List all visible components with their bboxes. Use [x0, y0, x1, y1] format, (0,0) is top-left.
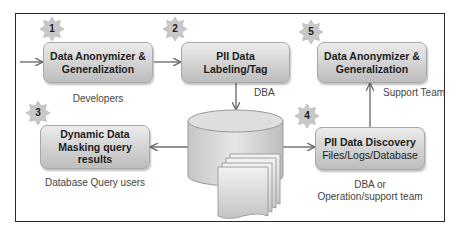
- step-3-dynamic-masking-box: Dynamic Data Masking query results: [40, 125, 150, 169]
- step-3-number: 3: [26, 101, 50, 125]
- step-3-number-badge: 3: [26, 101, 50, 125]
- step-2-pii-labeling-box: PII Data Labeling/Tag: [181, 42, 290, 83]
- step-4-pii-discovery-box: PII Data Discovery Files/Logs/Database: [315, 127, 425, 170]
- step-2-number: 2: [163, 17, 187, 41]
- step-5-data-anonymizer-box: Data Anonymizer & Generalization: [317, 42, 427, 83]
- step-5-title-line-2: Generalization: [336, 63, 408, 76]
- step-4-number-badge: 4: [295, 104, 319, 128]
- step-4-role-label-line-1: DBA or: [315, 179, 425, 190]
- step-2-title-line-2: Labeling/Tag: [204, 63, 268, 76]
- step-5-number-badge: 5: [299, 20, 323, 44]
- document-stack-icon: [218, 154, 280, 219]
- step-2-role-label: DBA: [254, 87, 275, 98]
- step-1-title-line-2: Generalization: [62, 63, 134, 76]
- step-5-number: 5: [299, 20, 323, 44]
- step-3-title-line-3: results: [78, 153, 112, 166]
- step-3-title-line-2: Masking query: [58, 141, 132, 154]
- step-1-data-anonymizer-box: Data Anonymizer & Generalization: [43, 42, 153, 83]
- step-1-role-label: Developers: [43, 93, 153, 104]
- step-3-role-label: Database Query users: [30, 177, 160, 188]
- step-1-number: 1: [40, 17, 64, 41]
- step-1-title-line-1: Data Anonymizer &: [50, 50, 146, 63]
- step-2-title-line-1: PII Data: [216, 50, 255, 63]
- step-5-role-label: Support Team: [383, 87, 445, 98]
- step-2-number-badge: 2: [163, 17, 187, 41]
- step-4-title-line-2: Files/Logs/Database: [322, 149, 418, 162]
- step-5-title-line-1: Data Anonymizer &: [324, 50, 420, 63]
- step-4-number: 4: [295, 104, 319, 128]
- step-3-title-line-1: Dynamic Data: [60, 128, 129, 141]
- step-4-role-label-line-2: Operation/support team: [305, 191, 435, 202]
- step-1-number-badge: 1: [40, 17, 64, 41]
- step-4-title-line-1: PII Data Discovery: [324, 136, 416, 149]
